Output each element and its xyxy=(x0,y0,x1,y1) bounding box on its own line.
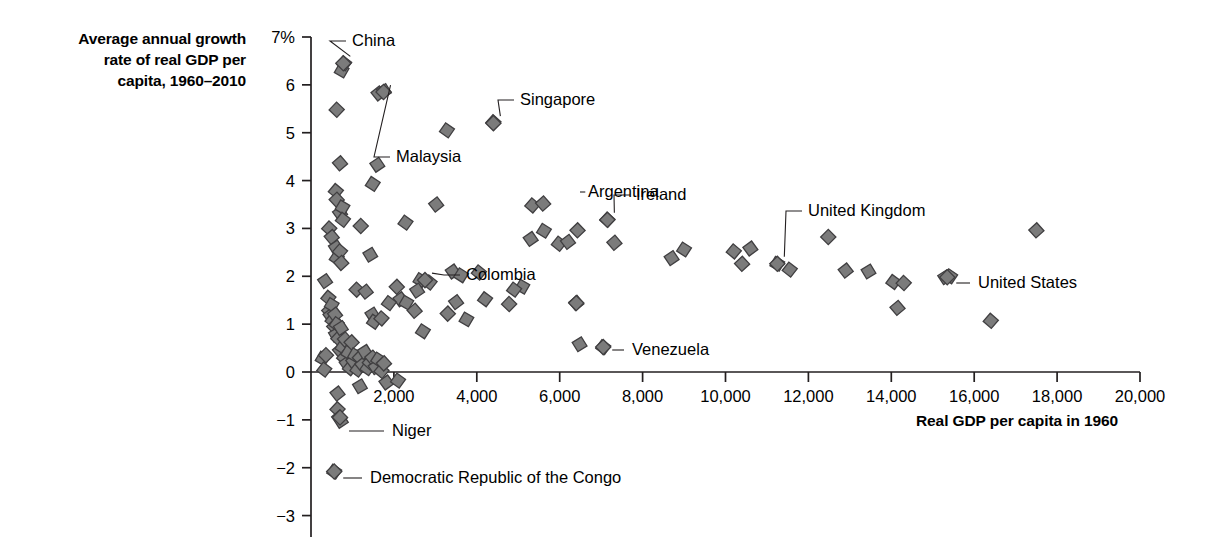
data-point-marker xyxy=(572,337,587,352)
x-tick-label: 4,000 xyxy=(456,387,497,405)
data-point-marker xyxy=(370,157,385,172)
annotation-label: United States xyxy=(978,273,1077,291)
annotation-label: Malaysia xyxy=(396,147,462,165)
annotation-label: China xyxy=(352,31,396,49)
data-point-marker xyxy=(536,196,551,211)
data-point-marker xyxy=(353,379,368,394)
annotation-leader-line xyxy=(330,41,350,56)
y-tick-label: −3 xyxy=(276,507,295,525)
y-tick-label: 2 xyxy=(286,267,295,285)
data-point-marker xyxy=(600,212,615,227)
annotation-label: Argentina xyxy=(588,182,659,200)
y-tick-label: −1 xyxy=(276,411,295,429)
x-tick-label: 10,000 xyxy=(700,387,750,405)
data-point-marker xyxy=(821,229,836,244)
y-tick-label: 0 xyxy=(286,363,295,381)
data-point-marker xyxy=(439,123,454,138)
annotation-label: Democratic Republic of the Congo xyxy=(370,468,621,486)
data-point-marker xyxy=(332,156,347,171)
data-point-marker xyxy=(330,386,345,401)
x-tick-label: 16,000 xyxy=(949,387,999,405)
x-tick-label: 18,000 xyxy=(1032,387,1082,405)
data-point-marker xyxy=(353,218,368,233)
data-point-marker xyxy=(429,197,444,212)
x-tick-label: 20,000 xyxy=(1115,387,1165,405)
data-point-marker xyxy=(743,241,758,256)
data-point-marker xyxy=(391,373,406,388)
annotation-leader-line xyxy=(498,100,514,116)
data-point-marker xyxy=(537,223,552,238)
data-point-marker xyxy=(398,215,413,230)
x-tick-label: 8,000 xyxy=(622,387,663,405)
y-tick-group: 7%6543210−1−2−3 xyxy=(271,28,311,525)
data-point-marker xyxy=(363,247,378,262)
data-point-marker xyxy=(890,300,905,315)
y-tick-label: 1 xyxy=(286,315,295,333)
data-point-marker xyxy=(983,313,998,328)
data-point-marker xyxy=(896,275,911,290)
data-point-marker xyxy=(478,292,493,307)
data-point-marker xyxy=(502,296,517,311)
y-tick-label: 7% xyxy=(271,28,295,46)
data-point-marker xyxy=(838,263,853,278)
x-tick-label: 14,000 xyxy=(866,387,916,405)
data-point-marker xyxy=(1029,223,1044,238)
data-point-marker xyxy=(726,244,741,259)
annotation-leader-line xyxy=(784,211,802,257)
y-tick-label: 5 xyxy=(286,124,295,142)
data-point-group xyxy=(315,56,1044,479)
chart-container: Average annual growth rate of real GDP p… xyxy=(0,0,1216,554)
y-tick-label: 4 xyxy=(286,172,295,190)
data-point-marker xyxy=(596,340,611,355)
annotation-label: Venezuela xyxy=(632,340,710,358)
data-point-marker xyxy=(486,116,501,131)
data-point-marker xyxy=(607,235,622,250)
data-point-marker xyxy=(317,362,332,377)
data-point-marker xyxy=(327,464,342,479)
data-point-marker xyxy=(861,264,876,279)
annotation-label: Niger xyxy=(392,421,432,439)
data-point-marker xyxy=(523,231,538,246)
data-point-marker xyxy=(734,256,749,271)
data-point-marker xyxy=(570,223,585,238)
y-tick-label: −2 xyxy=(276,459,295,477)
x-tick-label: 2,000 xyxy=(373,387,414,405)
data-point-marker xyxy=(569,295,584,310)
x-tick-label: 6,000 xyxy=(539,387,580,405)
data-point-marker xyxy=(449,295,464,310)
annotation-label: Singapore xyxy=(520,90,595,108)
data-point-marker xyxy=(664,251,679,266)
annotation-label: United Kingdom xyxy=(808,201,925,219)
y-tick-label: 6 xyxy=(286,76,295,94)
data-point-marker xyxy=(329,102,344,117)
annotation-group: ChinaSingaporeMalaysiaIrelandUnited King… xyxy=(327,31,1077,486)
x-tick-group: 2,0004,0006,0008,00010,00012,00014,00016… xyxy=(373,372,1165,405)
annotation-label: Colombia xyxy=(466,265,537,283)
data-point-marker xyxy=(440,306,455,321)
x-tick-label: 12,000 xyxy=(783,387,833,405)
data-point-marker xyxy=(415,324,430,339)
data-point-marker xyxy=(318,274,333,289)
y-tick-label: 3 xyxy=(286,219,295,237)
data-point-marker xyxy=(459,312,474,327)
scatter-plot-svg: 7%6543210−1−2−3 2,0004,0006,0008,00010,0… xyxy=(0,0,1216,554)
data-point-marker xyxy=(365,176,380,191)
data-point-marker xyxy=(677,242,692,257)
